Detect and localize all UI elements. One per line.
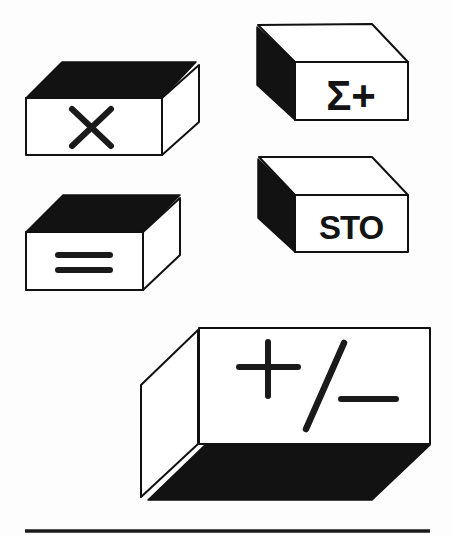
- equals-key-front-face: [26, 232, 143, 290]
- sigma-plus-key-label: Σ+: [326, 72, 376, 119]
- multiply-key: ×: [0, 0, 199, 155]
- store-key: STO: [258, 157, 408, 252]
- store-key-label: STO: [319, 209, 384, 246]
- calculator-keys-illustration: × = Σ+ STO: [0, 0, 452, 535]
- change-sign-key-bottom-face: [148, 445, 430, 500]
- sigma-plus-key: Σ+: [257, 24, 408, 120]
- illustration-canvas: × = Σ+ STO: [0, 0, 452, 535]
- change-sign-key-front-face: [199, 328, 430, 444]
